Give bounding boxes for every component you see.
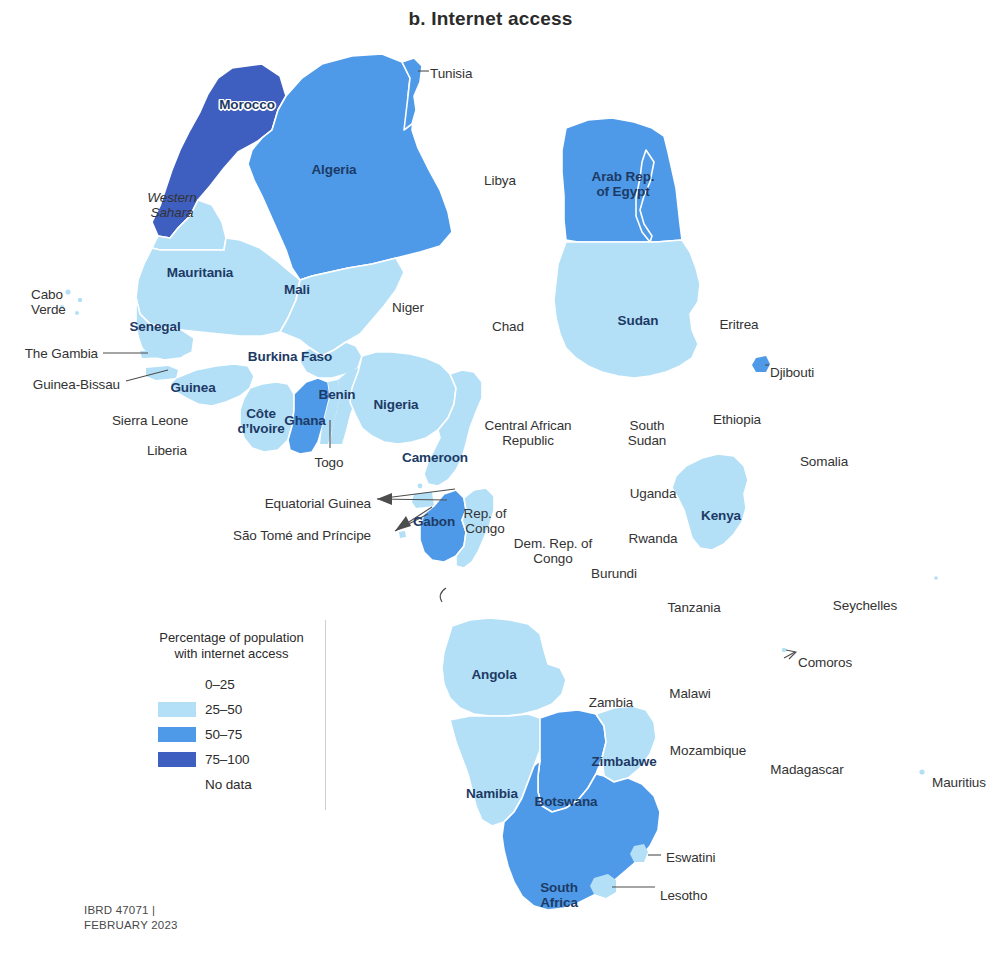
map-label-benin: Benin [318, 387, 355, 402]
map-label-angola: Angola [471, 667, 516, 682]
map-label-the-gambia: The Gambia [25, 346, 98, 361]
map-legend: Percentage of population with internet a… [138, 620, 326, 810]
legend-swatch [158, 727, 196, 742]
leader-arrow-sao-tome [395, 516, 411, 531]
map-label-niger: Niger [392, 300, 424, 315]
legend-entry: 50–75 [158, 722, 325, 747]
map-label-tunisia: Tunisia [430, 66, 472, 81]
map-label-western-sahara: Western Sahara [147, 190, 196, 220]
legend-title-line-1: Percentage of population [146, 630, 317, 646]
map-label-mali: Mali [284, 282, 310, 297]
island-cabo-verde-4 [75, 311, 79, 315]
map-label-chad: Chad [492, 319, 524, 334]
legend-label: 50–75 [205, 727, 242, 742]
legend-entry: 0–25 [158, 672, 325, 697]
map-label-madagascar: Madagascar [770, 762, 843, 777]
map-label-cote-divoire: Côte d’Ivoire [237, 406, 284, 436]
island-seychelles [934, 576, 938, 580]
map-label-eswatini: Eswatini [666, 850, 715, 865]
island-bioko [418, 484, 423, 489]
map-label-rep-congo: Rep. of Congo [464, 506, 507, 536]
map-label-ghana: Ghana [284, 413, 326, 428]
map-label-lesotho: Lesotho [660, 888, 707, 903]
map-label-rwanda: Rwanda [629, 531, 678, 546]
map-label-liberia: Liberia [147, 443, 187, 458]
map-label-guinea: Guinea [170, 380, 215, 395]
legend-label: 75–100 [205, 752, 249, 767]
coast-mark-congo [440, 588, 446, 602]
map-label-sudan: Sudan [618, 313, 659, 328]
map-label-drc: Dem. Rep. of Congo [514, 536, 592, 566]
map-label-south-sudan: South Sudan [628, 418, 667, 448]
map-label-eritrea: Eritrea [719, 317, 758, 332]
legend-entry: 75–100 [158, 747, 325, 772]
legend-swatch [158, 777, 196, 792]
legend-label: No data [205, 777, 252, 792]
legend-entry-list: 0–2525–5050–7575–100No data [138, 672, 325, 797]
map-label-south-africa: South Africa [540, 880, 578, 910]
map-label-togo: Togo [315, 455, 344, 470]
legend-swatch [158, 677, 196, 692]
map-label-equatorial-guinea: Equatorial Guinea [265, 496, 371, 511]
island-cabo-verde-1 [65, 289, 70, 294]
map-label-sierra-leone: Sierra Leone [112, 413, 188, 428]
map-label-mauritania: Mauritania [167, 265, 234, 280]
map-label-burkina-faso: Burkina Faso [248, 349, 332, 364]
leader-arrow-equatorial-guinea [377, 493, 392, 505]
country-guinea-bissau [146, 366, 178, 380]
map-label-cabo-verde: Cabo Verde [31, 287, 66, 317]
legend-title-line-2: with internet access [146, 646, 317, 662]
map-label-namibia: Namibia [466, 786, 518, 801]
legend-entry: 25–50 [158, 697, 325, 722]
map-label-gabon: Gabon [413, 514, 455, 529]
legend-entry: No data [158, 772, 325, 797]
country-sudan [554, 240, 700, 378]
legend-title: Percentage of population with internet a… [138, 630, 325, 663]
map-label-guinea-bissau: Guinea-Bissau [33, 377, 120, 392]
map-label-ethiopia: Ethiopia [713, 412, 761, 427]
map-label-mauritius: Mauritius [932, 775, 986, 790]
legend-label: 25–50 [205, 702, 242, 717]
map-label-uganda: Uganda [630, 486, 677, 501]
map-label-kenya: Kenya [701, 508, 741, 523]
map-label-cameroon: Cameroon [402, 450, 468, 465]
map-label-tanzania: Tanzania [667, 600, 720, 615]
legend-swatch [158, 702, 196, 717]
map-label-burundi: Burundi [591, 566, 637, 581]
map-label-car: Central African Republic [484, 418, 571, 448]
map-label-malawi: Malawi [669, 686, 710, 701]
ibrd-credit: IBRD 47071 | FEBRUARY 2023 [84, 903, 178, 933]
map-label-mozambique: Mozambique [670, 743, 746, 758]
map-label-zimbabwe: Zimbabwe [591, 754, 656, 769]
map-label-somalia: Somalia [800, 454, 848, 469]
legend-swatch [158, 752, 196, 767]
country-djibouti [752, 356, 770, 372]
map-label-seychelles: Seychelles [833, 598, 897, 613]
map-label-djibouti: Djibouti [770, 365, 814, 380]
island-cabo-verde-2 [78, 298, 82, 302]
island-mauritius [919, 769, 924, 774]
map-label-algeria: Algeria [311, 162, 356, 177]
map-label-comoros: Comoros [798, 655, 852, 670]
map-label-morocco: Morocco [219, 97, 275, 112]
island-comoros [782, 648, 786, 652]
map-label-libya: Libya [484, 173, 516, 188]
legend-label: 0–25 [205, 677, 235, 692]
map-label-egypt: Arab Rep. of Egypt [592, 169, 655, 199]
country-zimbabwe [596, 706, 656, 782]
country-sao-tome [399, 531, 406, 538]
country-kenya [672, 454, 748, 550]
map-label-zambia: Zambia [589, 695, 633, 710]
map-label-senegal: Senegal [129, 319, 180, 334]
map-label-nigeria: Nigeria [373, 397, 418, 412]
map-label-botswana: Botswana [535, 794, 598, 809]
map-label-sao-tome: São Tomé and Príncipe [233, 528, 371, 543]
